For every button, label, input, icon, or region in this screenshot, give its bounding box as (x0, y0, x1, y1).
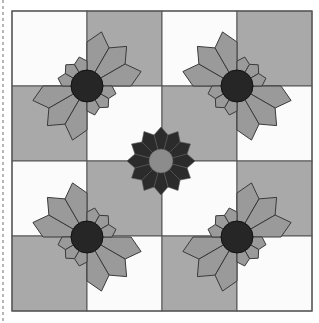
fan-center-circle (71, 221, 103, 253)
quilt-canvas (0, 0, 319, 323)
fan-center-circle (221, 70, 253, 102)
fan-center-circle (71, 70, 103, 102)
plate-center-circle (149, 149, 173, 173)
fan-center-circle (221, 221, 253, 253)
